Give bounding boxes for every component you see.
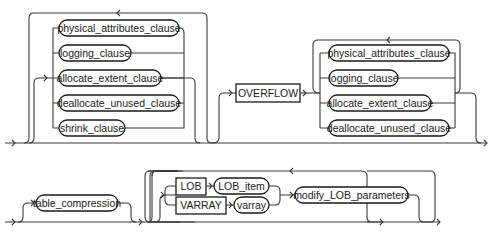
svg-text:allocate_extent_clause: allocate_extent_clause bbox=[57, 72, 164, 84]
svg-text:VARRAY: VARRAY bbox=[180, 199, 222, 211]
svg-text:physical_attributes_clause: physical_attributes_clause bbox=[57, 22, 180, 34]
overflow-keyword[interactable]: OVERFLOW bbox=[236, 84, 300, 102]
group1-item-physical-attributes-clause[interactable]: physical_attributes_clause bbox=[57, 20, 180, 36]
svg-text:deallocate_unused_clause: deallocate_unused_clause bbox=[57, 97, 182, 109]
svg-text:shrink_clause: shrink_clause bbox=[60, 122, 124, 134]
varray-keyword[interactable]: VARRAY bbox=[176, 197, 226, 214]
group2-left-rail bbox=[320, 53, 329, 128]
lob-item[interactable]: LOB_item bbox=[214, 178, 269, 194]
svg-text:allocate_extent_clause: allocate_extent_clause bbox=[327, 97, 434, 109]
svg-text:LOB_item: LOB_item bbox=[218, 180, 265, 192]
overflow-branch bbox=[212, 93, 236, 143]
lob-keyword[interactable]: LOB bbox=[176, 178, 206, 195]
svg-text:table_compression: table_compression bbox=[33, 197, 121, 209]
group2-item-deallocate-unused-clause[interactable]: deallocate_unused_clause bbox=[327, 120, 452, 136]
syntax-diagram: physical_attributes_clause logging_claus… bbox=[0, 0, 500, 232]
group1-item-deallocate-unused-clause[interactable]: deallocate_unused_clause bbox=[57, 95, 182, 111]
svg-text:varray: varray bbox=[237, 199, 267, 211]
group1-item-logging-clause[interactable]: logging_clause bbox=[59, 45, 131, 61]
varray-item[interactable]: varray bbox=[234, 197, 269, 213]
lob-varray-right-rail bbox=[269, 186, 295, 205]
svg-text:modify_LOB_parameters: modify_LOB_parameters bbox=[293, 189, 410, 201]
svg-text:deallocate_unused_clause: deallocate_unused_clause bbox=[327, 122, 452, 134]
group1-item-allocate-extent-clause[interactable]: allocate_extent_clause bbox=[57, 70, 164, 86]
lob-varray-left-rail bbox=[155, 186, 176, 222]
svg-text:physical_attributes_clause: physical_attributes_clause bbox=[327, 47, 450, 59]
group1-entry bbox=[29, 78, 59, 143]
svg-text:LOB: LOB bbox=[180, 180, 201, 192]
group1-item-shrink-clause[interactable]: shrink_clause bbox=[59, 120, 125, 136]
group2-item-physical-attributes-clause[interactable]: physical_attributes_clause bbox=[327, 45, 450, 61]
svg-text:logging_clause: logging_clause bbox=[60, 47, 130, 59]
group2-item-logging-clause[interactable]: logging_clause bbox=[328, 70, 398, 86]
svg-text:OVERFLOW: OVERFLOW bbox=[238, 87, 298, 99]
group2-item-allocate-extent-clause[interactable]: allocate_extent_clause bbox=[327, 95, 434, 111]
svg-text:logging_clause: logging_clause bbox=[328, 72, 398, 84]
modify-lob-parameters[interactable]: modify_LOB_parameters bbox=[293, 187, 410, 203]
table-compression[interactable]: table_compression bbox=[33, 195, 121, 211]
lob-loop-frame bbox=[152, 171, 178, 176]
